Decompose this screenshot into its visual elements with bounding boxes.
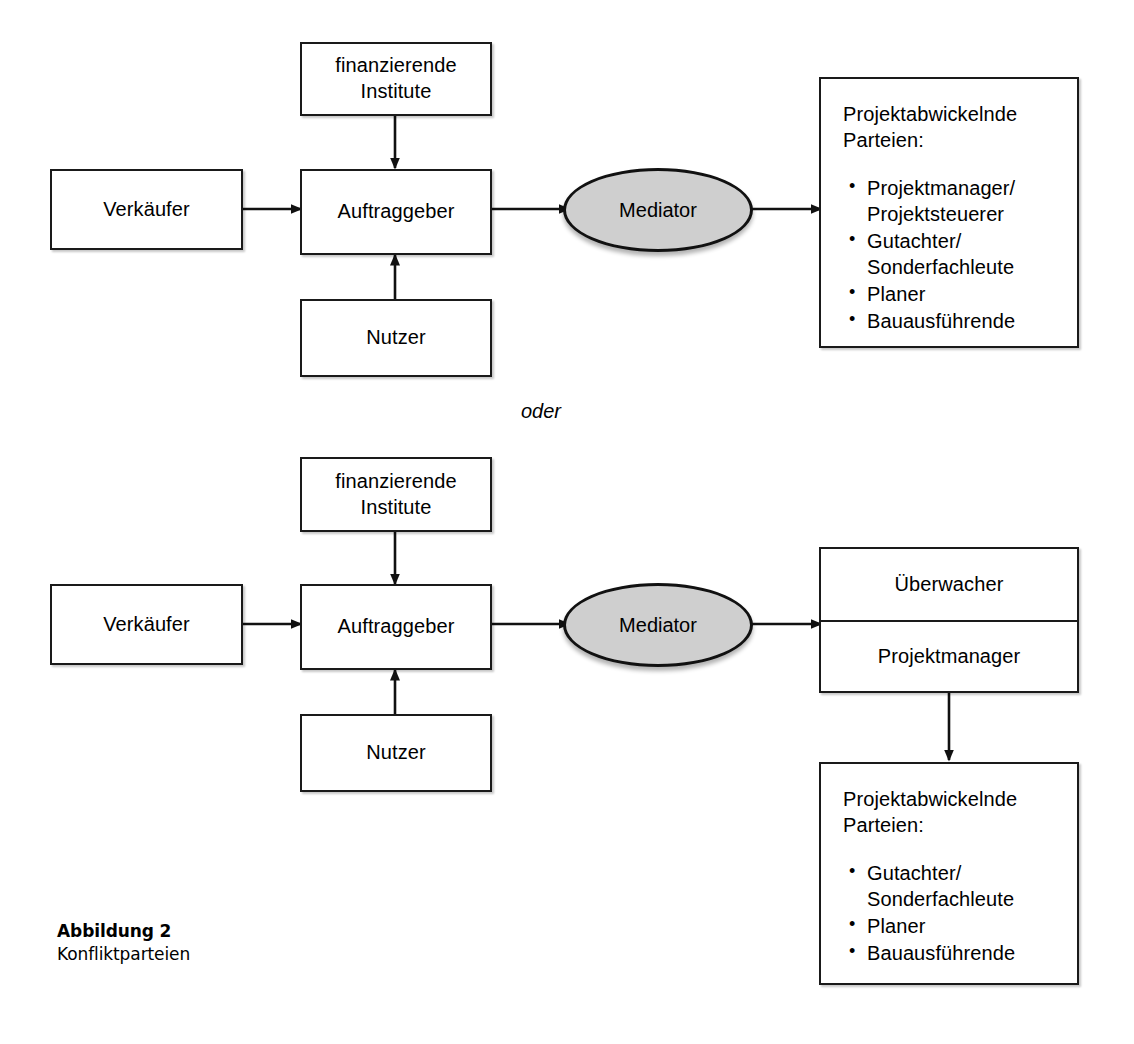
- seller-label: Verkäufer: [103, 197, 190, 223]
- list-item: Gutachter/Sonderfachleute: [867, 860, 1015, 912]
- node-project-manager-cell[interactable]: Projektmanager: [821, 620, 1077, 691]
- connector-label-oder: oder: [521, 400, 561, 423]
- seller-label: Verkäufer: [103, 612, 190, 638]
- node-user-a[interactable]: Nutzer: [300, 299, 492, 377]
- figure-caption: Abbildung 2 Konfliktparteien: [57, 920, 190, 967]
- parties-heading-b: Projektabwickelnde Parteien:: [843, 786, 1017, 838]
- parties-list-a: Projektmanager/Projektsteuerer Gutachter…: [843, 175, 1015, 335]
- client-label: Auftraggeber: [338, 614, 455, 640]
- parties-heading-line-1: Projektabwickelnde: [843, 101, 1017, 127]
- node-project-parties-b[interactable]: Projektabwickelnde Parteien: Gutachter/S…: [819, 762, 1079, 985]
- node-financing-institutes-b[interactable]: finanzierende Institute: [300, 457, 492, 532]
- node-financing-institutes-a[interactable]: finanzierende Institute: [300, 42, 492, 116]
- list-item: Planer: [867, 913, 1015, 939]
- parties-heading-line-1: Projektabwickelnde: [843, 786, 1017, 812]
- list-item: Planer: [867, 281, 1015, 307]
- parties-heading-line-2: Parteien:: [843, 812, 1017, 838]
- figure-caption-title: Abbildung 2: [57, 920, 190, 943]
- list-item: Bauausführende: [867, 940, 1015, 966]
- node-project-parties-a[interactable]: Projektabwickelnde Parteien: Projektmana…: [819, 77, 1079, 348]
- parties-heading-line-2: Parteien:: [843, 127, 1017, 153]
- figure-canvas: finanzierende Institute Verkäufer Auftra…: [0, 0, 1134, 1044]
- list-item: Bauausführende: [867, 308, 1015, 334]
- mediator-label: Mediator: [619, 199, 697, 222]
- node-supervisor-cell[interactable]: Überwacher: [821, 549, 1077, 620]
- user-label: Nutzer: [366, 325, 426, 351]
- project-manager-label: Projektmanager: [878, 644, 1021, 670]
- financing-line-1: finanzierende: [335, 469, 456, 495]
- supervisor-label: Überwacher: [895, 572, 1004, 598]
- parties-list-b: Gutachter/Sonderfachleute Planer Bauausf…: [843, 860, 1015, 967]
- parties-heading-a: Projektabwickelnde Parteien:: [843, 101, 1017, 153]
- financing-line-2: Institute: [361, 79, 432, 105]
- client-label: Auftraggeber: [338, 199, 455, 225]
- node-mediator-b[interactable]: Mediator: [563, 583, 753, 667]
- list-item: Gutachter/Sonderfachleute: [867, 228, 1015, 280]
- node-seller-a[interactable]: Verkäufer: [50, 169, 243, 250]
- financing-line-1: finanzierende: [335, 53, 456, 79]
- user-label: Nutzer: [366, 740, 426, 766]
- node-seller-b[interactable]: Verkäufer: [50, 584, 243, 665]
- node-supervisor-stack-b[interactable]: Überwacher Projektmanager: [819, 547, 1079, 693]
- node-client-a[interactable]: Auftraggeber: [300, 169, 492, 255]
- mediator-label: Mediator: [619, 614, 697, 637]
- node-mediator-a[interactable]: Mediator: [563, 168, 753, 252]
- financing-line-2: Institute: [361, 495, 432, 521]
- list-item: Projektmanager/Projektsteuerer: [867, 175, 1015, 227]
- figure-caption-subtitle: Konfliktparteien: [57, 943, 190, 966]
- node-user-b[interactable]: Nutzer: [300, 714, 492, 792]
- node-client-b[interactable]: Auftraggeber: [300, 584, 492, 670]
